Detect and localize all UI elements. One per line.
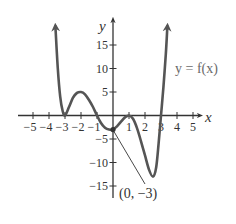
x-tick-label: 4 — [174, 120, 180, 134]
annotated-point — [110, 127, 115, 132]
x-tick-label: 1 — [126, 120, 132, 134]
y-tick-label: 5 — [102, 85, 108, 99]
function-graph: −5−4−3−2−112345−15−10−551015 (0, −3) x y… — [0, 0, 236, 224]
point-annotation: (0, −3) — [110, 127, 157, 202]
x-tick-label: −5 — [24, 120, 37, 134]
x-tick-label: −3 — [56, 120, 69, 134]
x-tick-label: 5 — [190, 120, 196, 134]
x-axis-label: x — [204, 109, 212, 125]
point-label: (0, −3) — [119, 186, 158, 202]
function-label: y = f(x) — [175, 61, 218, 77]
x-tick-label: 2 — [142, 120, 148, 134]
function-curve — [55, 26, 167, 176]
axes — [18, 20, 200, 198]
y-tick-label: −10 — [89, 156, 108, 170]
x-tick-label: −4 — [40, 120, 53, 134]
x-tick-label: −2 — [72, 120, 85, 134]
y-axis-label: y — [97, 18, 106, 34]
y-tick-label: 10 — [96, 62, 108, 76]
y-tick-label: −5 — [95, 132, 108, 146]
y-tick-label: −15 — [89, 179, 108, 193]
y-tick-label: 15 — [96, 38, 108, 52]
